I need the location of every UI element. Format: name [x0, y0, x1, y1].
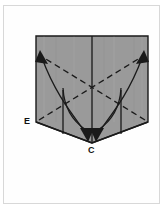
- figure-root: E C: [0, 0, 164, 211]
- vertex-label-e: E: [24, 117, 30, 126]
- origami-diagram: [0, 0, 164, 211]
- vertex-label-c: C: [88, 146, 95, 155]
